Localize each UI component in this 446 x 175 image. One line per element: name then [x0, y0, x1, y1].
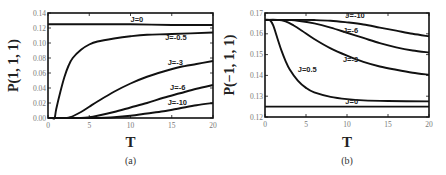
x-tick-label: 20 [425, 120, 433, 129]
series-line-jneg6 [265, 20, 429, 53]
y-tick-label: 0.02 [33, 99, 46, 108]
series-annotation: J=-0.5 [165, 33, 186, 42]
x-tick-label: 15 [384, 120, 392, 129]
y-axis-label: P(−1, 1, 1) [222, 34, 238, 95]
series-line-jneg6 [48, 85, 213, 118]
y-tick-label: 0.10 [33, 39, 46, 48]
panel-label: (a) [125, 155, 136, 167]
y-tick-label: 0.17 [250, 9, 263, 18]
series-annotation: J=-6 [170, 83, 185, 92]
y-tick-label: 0.14 [33, 9, 46, 18]
x-tick-label: 10 [127, 121, 135, 130]
y-tick-label: 0.08 [33, 54, 46, 63]
y-tick-label: 0.00 [33, 114, 46, 123]
x-tick-label: 0 [46, 121, 50, 130]
x-tick-label: 5 [304, 120, 308, 129]
y-axis-label: P(1, 1, 1) [6, 39, 22, 92]
x-axis-label: T [125, 134, 135, 150]
x-tick-label: 5 [87, 121, 91, 130]
series-annotation: J=-10 [168, 98, 187, 107]
series-annotation: J=-3 [168, 58, 183, 67]
series-annotation: J=0.5 [298, 65, 317, 74]
y-tick-label: 0.04 [33, 84, 46, 93]
y-tick-label: 0.12 [33, 24, 46, 33]
chart-a: 051015200.000.020.040.060.080.100.120.14… [6, 9, 217, 168]
figure: 051015200.000.020.040.060.080.100.120.14… [0, 0, 446, 175]
panel-label: (b) [341, 155, 353, 167]
x-axis-label: T [342, 134, 352, 150]
series-line-jneg3 [48, 61, 213, 118]
series-annotation: J=-3 [343, 55, 358, 64]
y-tick-label: 0.13 [250, 92, 263, 101]
y-tick-label: 0.14 [250, 71, 263, 80]
series-annotation: J=0 [345, 97, 358, 106]
x-tick-label: 15 [168, 121, 176, 130]
x-tick-label: 20 [209, 121, 217, 130]
y-tick-label: 0.16 [250, 29, 263, 38]
series-annotation: J=0 [131, 15, 144, 24]
chart-b: 051015200.120.130.140.150.160.17J=-10J=-… [222, 9, 433, 168]
y-tick-label: 0.12 [250, 113, 263, 122]
y-tick-label: 0.15 [250, 50, 263, 59]
x-tick-label: 10 [343, 120, 351, 129]
series-annotation: J=-10 [345, 11, 364, 20]
series-line-j0 [48, 24, 213, 25]
series-annotation: J=-6 [343, 26, 358, 35]
y-tick-label: 0.06 [33, 69, 46, 78]
x-tick-label: 0 [263, 120, 267, 129]
